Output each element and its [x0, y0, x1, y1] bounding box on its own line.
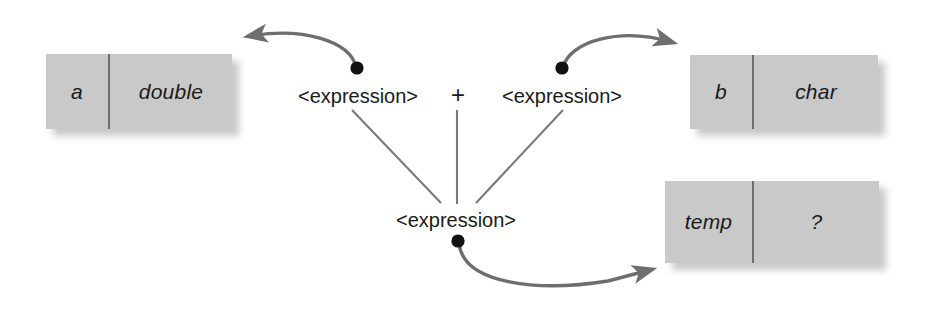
expression-label-right-operand: <expression>: [502, 85, 622, 108]
variable-box-temp: temp ?: [665, 181, 879, 263]
tree-line-right: [476, 110, 563, 203]
variable-type-b: char: [752, 55, 878, 129]
operator-label-plus: +: [451, 81, 465, 109]
variable-box-a: a double: [46, 54, 232, 129]
expression-type-diagram: a double b char temp ? <expression> + <e…: [0, 0, 935, 310]
tree-line-left: [352, 110, 441, 203]
variable-type-temp: ?: [752, 181, 879, 263]
arrow-result-to-temp: [459, 243, 650, 286]
variable-type-a: double: [108, 54, 232, 129]
variable-name-a: a: [46, 54, 108, 129]
arrow-right-expression-to-b: [563, 36, 671, 67]
variable-name-b: b: [690, 55, 752, 129]
dot-right-expression: [555, 61, 568, 74]
diagram-connectors-layer: [0, 0, 935, 310]
variable-box-b: b char: [690, 55, 878, 129]
variable-name-temp: temp: [665, 181, 752, 263]
arrow-left-expression-to-a: [250, 33, 356, 67]
expression-label-result: <expression>: [396, 209, 516, 232]
expression-label-left-operand: <expression>: [298, 85, 418, 108]
dot-left-expression: [350, 61, 363, 74]
dot-result-expression: [451, 234, 464, 247]
